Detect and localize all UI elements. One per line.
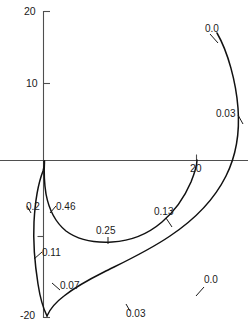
annotation-label-0.11: 0.11 xyxy=(42,248,61,258)
y-axis-label-20: 20 xyxy=(24,6,36,17)
x-axis-label-20: 20 xyxy=(190,163,202,174)
leader-0.0-top xyxy=(210,34,218,43)
annotation-label-0.07: 0.07 xyxy=(60,281,79,291)
annotation-label-0.03-bottom: 0.03 xyxy=(126,309,145,319)
leader-0.13 xyxy=(166,218,172,227)
y-axis-label-neg20: -20 xyxy=(20,310,35,321)
annotation-label-0.2: 0.2 xyxy=(26,202,40,212)
leader-0.07 xyxy=(52,283,60,290)
y-axis-label-10: 10 xyxy=(26,78,38,89)
plot-figure: 20 10 -20 20 0.0 0.03 0.13 0.25 0.46 0.2… xyxy=(0,0,248,333)
annotation-label-0.0-bottom: 0.0 xyxy=(204,275,218,285)
axes-group xyxy=(0,11,248,318)
annotation-label-0.13: 0.13 xyxy=(154,207,173,217)
annotation-leaders xyxy=(27,34,243,311)
annotation-label-0.03-top: 0.03 xyxy=(216,109,235,119)
leader-0.0-bot xyxy=(196,287,204,296)
tick-marks xyxy=(38,12,197,318)
annotation-label-0.0-top: 0.0 xyxy=(205,24,219,34)
annotation-label-0.46: 0.46 xyxy=(56,202,75,212)
annotation-label-0.25: 0.25 xyxy=(96,226,115,236)
